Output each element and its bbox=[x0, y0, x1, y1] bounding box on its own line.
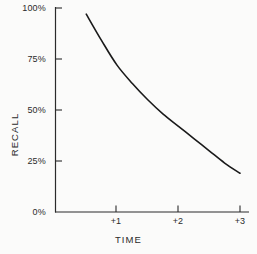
x-tick-label-plus1: +1 bbox=[111, 216, 122, 226]
y-tick-label-100: 100% bbox=[6, 3, 46, 13]
x-axis-title: TIME bbox=[0, 234, 257, 245]
y-axis-title: RECALL bbox=[9, 105, 20, 165]
recall-decay-curve bbox=[86, 14, 240, 173]
x-tick-label-plus3: +3 bbox=[235, 216, 246, 226]
y-tick-label-75: 75% bbox=[6, 54, 46, 64]
y-tick-label-0: 0% bbox=[6, 207, 46, 217]
x-tick-label-plus2: +2 bbox=[173, 216, 184, 226]
forgetting-curve-chart: 100% 75% 50% 25% 0% +1 +2 +3 RECALL TIME bbox=[0, 0, 257, 254]
